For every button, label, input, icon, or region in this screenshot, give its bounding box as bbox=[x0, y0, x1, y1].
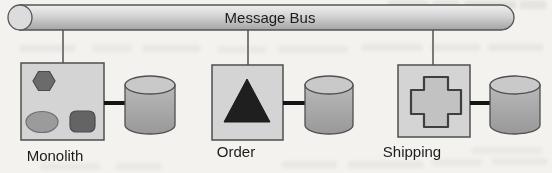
monolith-label: Monolith bbox=[27, 147, 84, 164]
monolith-database-cylinder bbox=[125, 76, 175, 134]
hexagon-icon bbox=[33, 72, 55, 91]
message-bus: Message Bus bbox=[8, 5, 514, 30]
shipping-database-top bbox=[490, 76, 540, 94]
order-database-cylinder bbox=[305, 76, 353, 134]
order-database-top bbox=[305, 76, 353, 94]
message-bus-left-cap bbox=[8, 5, 32, 30]
monolith-database-top bbox=[125, 76, 175, 94]
order-label: Order bbox=[217, 143, 255, 160]
figure-canvas: Message Bus Monolith Order Ship bbox=[0, 0, 552, 173]
shipping-database-cylinder bbox=[490, 76, 540, 134]
message-bus-label: Message Bus bbox=[225, 9, 316, 26]
architecture-diagram: Message Bus Monolith Order Ship bbox=[0, 0, 552, 173]
rounded-square-icon bbox=[70, 111, 95, 132]
shipping-label: Shipping bbox=[383, 143, 441, 160]
ellipse-icon bbox=[26, 112, 58, 133]
